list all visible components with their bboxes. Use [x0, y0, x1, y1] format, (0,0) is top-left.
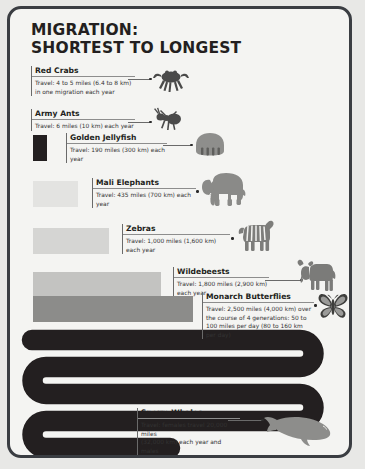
- crab-icon: [152, 66, 190, 94]
- row-label-zebras: Zebras Travel: 1,000 miles (1,600 km) ea…: [122, 224, 230, 254]
- bar-monarch-butterflies: [33, 296, 193, 322]
- row-title-zebras: Zebras: [122, 224, 230, 234]
- elephant-icon: [199, 171, 247, 209]
- label-left-rule: [122, 224, 123, 254]
- bar-zebras: [33, 228, 109, 254]
- row-label-red-crabs: Red Crabs Travel: 4 to 5 miles (6.4 to 8…: [31, 66, 135, 96]
- leader-line-army-ants: [128, 122, 150, 123]
- jellyfish-icon: [193, 131, 227, 159]
- row-title-wildebeests: Wildebeests: [173, 267, 269, 277]
- page-title: MIGRATION: SHORTEST TO LONGEST: [31, 21, 241, 58]
- row-label-mali-elephants: Mali Elephants Travel: 435 miles (700 km…: [92, 178, 196, 208]
- leader-line-red-crabs: [128, 79, 150, 80]
- infographic-frame: MIGRATION: SHORTEST TO LONGEST Red Crabs…: [7, 6, 352, 458]
- title-line-2: SHORTEST TO LONGEST: [31, 39, 241, 57]
- bar-wildebeests: [33, 272, 161, 298]
- leader-line-sperm-whales: [228, 420, 262, 421]
- butterfly-icon: [317, 291, 349, 321]
- label-left-rule: [31, 66, 32, 96]
- label-left-rule: [137, 408, 138, 458]
- row-title-sperm-whales: Sperm Whales: [137, 408, 240, 418]
- whale-icon: [263, 413, 335, 449]
- leader-line-golden-jellyfish: [163, 145, 191, 146]
- bar-golden-jellyfish: [33, 135, 47, 161]
- row-label-army-ants: Army Ants Travel: 6 miles (10 km) each y…: [31, 109, 135, 131]
- row-title-red-crabs: Red Crabs: [31, 66, 135, 76]
- wildebeest-icon: [296, 257, 338, 293]
- row-desc-army-ants: Travel: 6 miles (10 km) each year: [31, 120, 135, 130]
- label-left-rule: [202, 292, 203, 339]
- label-left-rule: [173, 267, 174, 297]
- row-label-golden-jellyfish: Golden Jellyfish Travel: 190 miles (300 …: [66, 133, 167, 163]
- row-desc-zebras: Travel: 1,000 miles (1,600 km) each year: [122, 235, 230, 254]
- row-title-golden-jellyfish: Golden Jellyfish: [66, 133, 167, 143]
- row-title-monarch-butterflies: Monarch Butterflies: [202, 292, 314, 302]
- bar-mali-elephants: [33, 181, 78, 207]
- label-left-rule: [31, 109, 32, 131]
- title-line-1: MIGRATION:: [31, 21, 241, 39]
- label-left-rule: [92, 178, 93, 208]
- row-desc-golden-jellyfish: Travel: 190 miles (300 km) each year: [66, 144, 167, 163]
- row-label-monarch-butterflies: Monarch Butterflies Travel: 2,500 miles …: [202, 292, 314, 339]
- zebra-icon: [234, 219, 276, 253]
- row-title-army-ants: Army Ants: [31, 109, 135, 119]
- row-label-sperm-whales: Sperm Whales Travel: females travel 20,0…: [137, 408, 240, 458]
- row-desc-sperm-whales: Travel: females travel 20,000 miles (32,…: [137, 419, 240, 458]
- infographic-canvas: MIGRATION: SHORTEST TO LONGEST Red Crabs…: [10, 9, 349, 455]
- row-title-mali-elephants: Mali Elephants: [92, 178, 196, 188]
- row-desc-mali-elephants: Travel: 435 miles (700 km) each year: [92, 189, 196, 208]
- ant-icon: [151, 106, 185, 133]
- label-left-rule: [66, 133, 67, 163]
- row-desc-monarch-butterflies: Travel: 2,500 miles (4,000 km) over the …: [202, 303, 314, 339]
- row-desc-red-crabs: Travel: 4 to 5 miles (6.4 to 8 km) in on…: [31, 77, 135, 96]
